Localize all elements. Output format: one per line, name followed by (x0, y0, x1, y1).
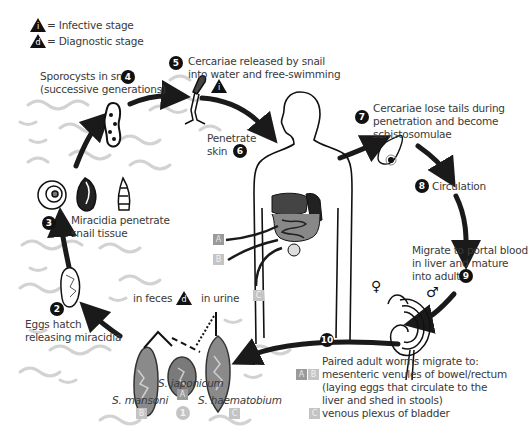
site-tag-c: C (309, 408, 320, 419)
snail-illustrations (38, 178, 130, 211)
step-10-badge: 10 (320, 333, 334, 347)
step-6-badge: 6 (233, 144, 247, 158)
in-feces-label: in feces (133, 292, 172, 305)
step-3-label-line2: snail tissue (71, 227, 127, 240)
body-site-tag-c: C (253, 290, 264, 301)
in-urine-label: in urine (201, 292, 239, 305)
step-10-label-line1: Paired adult worms migrate to: (322, 355, 479, 368)
step-10-label-line2: mesenteric venules of bowel/rectum (322, 368, 507, 381)
step-1-badge: 1 (176, 406, 190, 420)
infective-stage-icon: i (30, 18, 46, 32)
step-5-label-line1: Cercariae released by snail (188, 55, 325, 68)
step-7-badge: 7 (355, 110, 369, 124)
step-2-label-line2: releasing miracidia (25, 331, 121, 344)
species-mansoni-tag: B (136, 408, 147, 419)
step-4-badge: 4 (121, 70, 135, 84)
legend-infective-label: = Infective stage (47, 19, 134, 32)
step-7-label-line3: schistosomulae (373, 128, 452, 141)
step-9-badge: 9 (459, 269, 473, 283)
internal-organs (272, 193, 322, 256)
species-japonicum-label: S. japonicum (158, 377, 224, 390)
step-3-badge: 3 (42, 216, 56, 230)
step-10-label-line3: (laying eggs that circulate to the (322, 381, 487, 394)
step-4-label-line2: (successive generations) (40, 83, 166, 96)
step-9-label-line2: in liver and mature (412, 257, 508, 270)
diagnostic-stage-icon: d (30, 34, 46, 48)
egg-connector-lines (144, 312, 216, 352)
site-tag-b: B (308, 369, 319, 380)
site-pointer-lines (226, 226, 282, 286)
infective-stage-marker: i (211, 79, 227, 93)
step-6-label-line1: Penetrate (207, 132, 256, 145)
species-haematobium-tag: C (229, 408, 240, 419)
site-tag-a: A (296, 369, 307, 380)
body-site-tag-b: B (213, 254, 224, 265)
diagnostic-stage-marker: d (176, 291, 192, 305)
species-haematobium-label: S. haematobium (198, 394, 282, 407)
step-2-badge: 2 (50, 302, 64, 316)
step-2-label-line1: Eggs hatch (25, 318, 81, 331)
step-10-label-line4: liver and shed in stools) (322, 394, 443, 407)
sporocyst-illustration (104, 103, 120, 146)
step-9-label-line1: Migrate to portal blood (412, 244, 528, 257)
step-3-label-line1: Miracidia penetrate (71, 214, 170, 227)
female-symbol: ♀ (371, 280, 381, 293)
body-site-tag-a: A (213, 234, 224, 245)
step-7-label-line2: penetration and become (373, 115, 498, 128)
step-8-badge: 8 (415, 179, 429, 193)
legend-diagnostic-label: = Diagnostic stage (47, 35, 143, 48)
step-10-label-line5: venous plexus of bladder (322, 407, 450, 420)
step-8-label: Circulation (432, 180, 486, 193)
step-7-label-line1: Cercariae lose tails during (373, 102, 505, 115)
species-japonicum-tag: A (177, 389, 188, 400)
male-symbol: ♂ (426, 286, 438, 299)
step-6-label-line2: skin (207, 145, 227, 158)
species-mansoni-label: S. mansoni (112, 394, 168, 407)
step-9-label-line3: into adults (412, 270, 466, 283)
step-5-badge: 5 (169, 56, 183, 70)
